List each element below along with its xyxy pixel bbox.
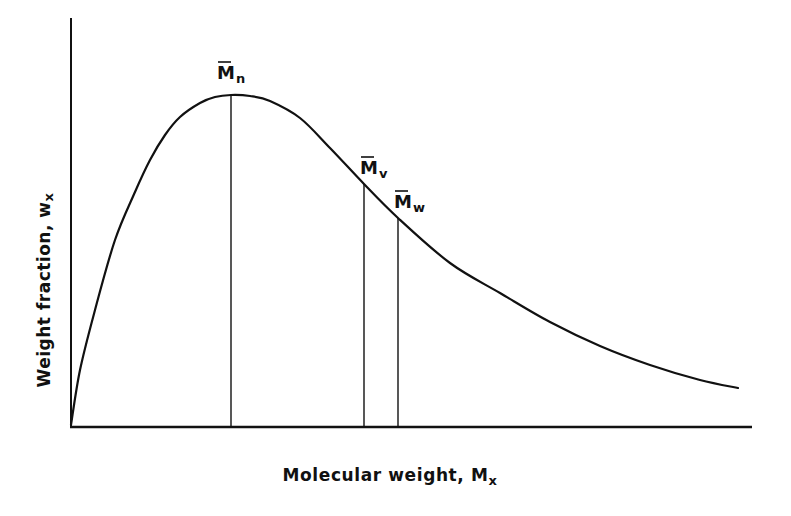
marker-label-v: Mv <box>360 157 388 181</box>
marker-label-w: Mw <box>394 191 425 215</box>
x-axis-label-main: Molecular weight, M <box>283 465 489 485</box>
x-axis-label: Molecular weight, Mx <box>283 465 498 488</box>
x-axis-label-sub: x <box>488 473 497 488</box>
svg-text:Molecular weight, Mx: Molecular weight, Mx <box>283 465 498 488</box>
y-axis-label-main: Weight fraction, w <box>34 201 54 387</box>
distribution-curve <box>71 95 738 425</box>
axes <box>70 18 752 428</box>
average-markers: MnMvMw <box>217 62 425 427</box>
y-axis-label-sub: x <box>41 192 56 201</box>
y-axis-label: Weight fraction, wx <box>34 192 56 387</box>
svg-text:Weight fraction, wx: Weight fraction, wx <box>34 192 56 387</box>
chart: MnMvMw Weight fraction, wx Molecular wei… <box>0 0 791 516</box>
marker-label-n: Mn <box>217 62 245 86</box>
